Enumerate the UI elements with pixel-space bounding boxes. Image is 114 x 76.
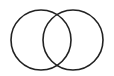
venn-circle-left: [11, 10, 71, 70]
venn-diagram: [0, 0, 114, 76]
venn-circle-right: [43, 10, 103, 70]
